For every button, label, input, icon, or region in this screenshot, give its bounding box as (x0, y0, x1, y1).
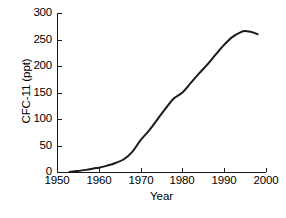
cfc11-line-chart: 050100150200250300 195019601970198019902… (0, 0, 286, 218)
cfc11-series-line (70, 31, 258, 172)
data-curve-layer (0, 0, 286, 218)
